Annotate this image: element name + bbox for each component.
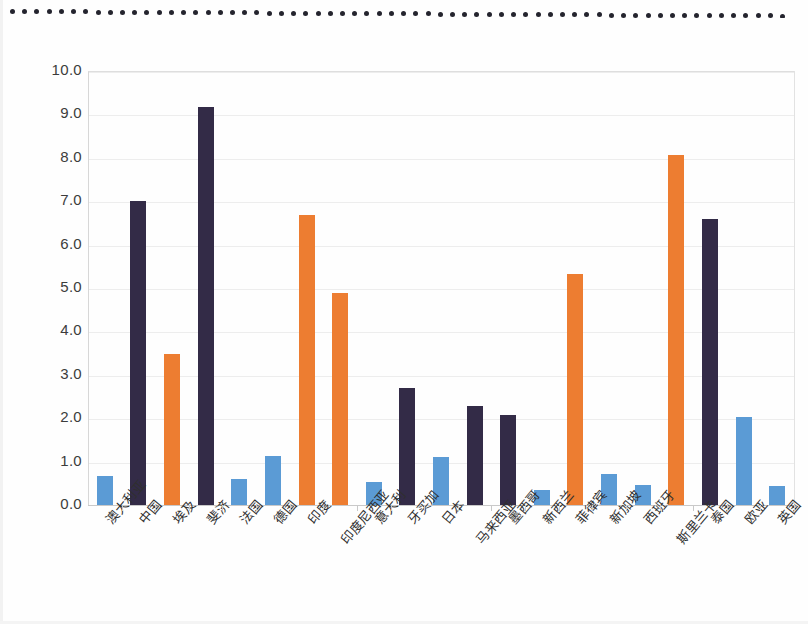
plot-right-border: [794, 71, 795, 511]
bar: [467, 406, 483, 505]
bar: [198, 107, 214, 505]
y-axis-tick-label: 3.0: [26, 365, 82, 382]
y-axis-tick-label: 5.0: [26, 278, 82, 295]
bar: [500, 415, 516, 505]
x-axis-tick: [693, 505, 694, 511]
x-axis-tick: [626, 505, 627, 511]
scan-dot: [536, 12, 541, 17]
x-axis-tick: [491, 505, 492, 511]
scan-dot: [597, 12, 602, 17]
bar: [702, 219, 718, 505]
scan-dot: [499, 12, 504, 17]
x-axis-tick: [559, 505, 560, 511]
y-axis-tick-label: 10.0: [26, 61, 82, 78]
scan-dot: [328, 11, 333, 16]
scan-dot: [426, 11, 431, 16]
x-axis-tick: [424, 505, 425, 511]
x-axis-tick: [794, 505, 795, 511]
scan-dot: [560, 12, 565, 17]
scan-dot: [352, 11, 357, 16]
scan-dot: [646, 13, 651, 18]
scan-dot: [230, 10, 235, 15]
scan-dot: [719, 13, 724, 18]
scan-dot: [474, 12, 479, 17]
x-axis-tick: [222, 505, 223, 511]
x-axis-tick: [760, 505, 761, 511]
x-axis-tick: [660, 505, 661, 511]
bar-series: [88, 71, 794, 505]
y-axis-tick-label: 4.0: [26, 321, 82, 338]
scan-dot: [132, 10, 137, 15]
scan-dot: [96, 10, 101, 15]
scan-dot: [548, 12, 553, 17]
x-axis-tick: [357, 505, 358, 511]
scan-dot: [731, 13, 736, 18]
scan-dot: [450, 12, 455, 17]
scan-dot: [291, 11, 296, 16]
scan-dot: [181, 10, 186, 15]
scan-dot: [364, 11, 369, 16]
scan-dot: [267, 11, 272, 16]
scan-dot: [756, 13, 761, 18]
scan-dot: [242, 10, 247, 15]
bar: [668, 155, 684, 505]
scan-dot: [572, 12, 577, 17]
scan-dot: [413, 11, 418, 16]
y-axis-tick-label: 6.0: [26, 235, 82, 252]
x-axis-labels: 澳大利亚中国埃及斐济法国德国印度印度尼西亚意大利牙买加日本马来西亚墨西哥新西兰菲…: [0, 505, 808, 624]
scan-dot: [609, 13, 614, 18]
y-axis-tick-label: 7.0: [26, 191, 82, 208]
y-axis-tick-label: 1.0: [26, 452, 82, 469]
scan-dot: [584, 12, 589, 17]
scan-dot: [511, 12, 516, 17]
scan-dot: [316, 11, 321, 16]
bar: [265, 456, 281, 505]
scan-dot: [438, 12, 443, 17]
scan-dot: [401, 11, 406, 16]
scan-dot: [254, 10, 259, 15]
scan-dot: [621, 13, 626, 18]
scan-dot: [670, 13, 675, 18]
x-axis-tick: [458, 505, 459, 511]
bar: [332, 293, 348, 505]
bar: [567, 274, 583, 505]
scan-dot: [144, 10, 149, 15]
scan-dot: [340, 11, 345, 16]
scan-dot: [169, 10, 174, 15]
scan-dot: [768, 13, 773, 18]
scan-dot: [279, 11, 284, 16]
x-axis-tick: [155, 505, 156, 511]
scan-dot: [303, 11, 308, 16]
x-axis-tick: [727, 505, 728, 511]
bar: [736, 417, 752, 505]
bar: [97, 476, 113, 506]
scan-dot: [707, 13, 712, 18]
y-axis-tick-label: 2.0: [26, 408, 82, 425]
x-axis-tick: [592, 505, 593, 511]
scan-dotted-line: [10, 8, 790, 18]
scan-dot: [658, 13, 663, 18]
x-axis-tick: [391, 505, 392, 511]
bar: [399, 388, 415, 505]
x-axis-tick: [189, 505, 190, 511]
scan-dot: [193, 10, 198, 15]
scan-dot: [206, 10, 211, 15]
scan-dot: [780, 14, 785, 19]
chart-page: 0.01.02.03.04.05.06.07.08.09.010.0 澳大利亚中…: [0, 0, 808, 624]
scan-dot: [523, 12, 528, 17]
x-axis-tick: [525, 505, 526, 511]
bar: [130, 201, 146, 505]
scan-dot: [120, 10, 125, 15]
scan-dot: [218, 10, 223, 15]
scan-dot: [389, 11, 394, 16]
scan-dot: [743, 13, 748, 18]
x-axis-tick: [122, 505, 123, 511]
x-axis-tick: [323, 505, 324, 511]
scan-dot: [682, 13, 687, 18]
y-axis-tick-label: 9.0: [26, 104, 82, 121]
scan-dot: [108, 10, 113, 15]
scan-dot: [487, 12, 492, 17]
scan-dot: [10, 9, 15, 14]
bar: [164, 354, 180, 505]
scan-dot: [157, 10, 162, 15]
